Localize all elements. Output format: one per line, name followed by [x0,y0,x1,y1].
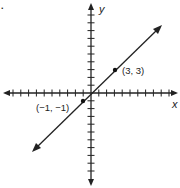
coordinate-plane: . y x (3, 3) (−1, −1) [0,0,180,188]
y-axis-label: y [98,3,106,15]
y-axis-down-arrow-icon [88,179,94,186]
point-3-3 [113,68,117,72]
x-axis-label: x [171,98,178,110]
point-neg1-neg1 [81,99,85,103]
corner-mark: . [1,1,4,11]
point-label-neg1-neg1: (−1, −1) [36,102,69,113]
graph-line [36,29,158,148]
x-axis-right-arrow-icon [171,90,178,96]
x-axis-left-arrow-icon [3,90,10,96]
point-label-3-3: (3, 3) [122,65,144,76]
y-axis-up-arrow-icon [88,3,94,10]
